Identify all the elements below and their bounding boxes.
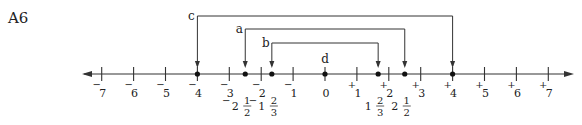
tick-label: 7 (546, 87, 553, 100)
fraction-denominator: 2 (244, 107, 250, 118)
tick-label: 4 (450, 87, 457, 100)
point-dot (450, 71, 455, 76)
tick-label: 6 (131, 87, 138, 100)
pair-label-c: c (188, 9, 195, 23)
fraction-whole: 2 (232, 100, 239, 113)
arrowhead-icon (450, 61, 455, 68)
fraction-numerator: 1 (404, 95, 410, 106)
point-dot (376, 71, 381, 76)
tick-label: 4 (195, 87, 202, 100)
fraction-numerator: 2 (377, 95, 383, 106)
arrowhead-icon (195, 61, 200, 68)
tick-label: 1 (291, 87, 298, 100)
point-dot (402, 71, 407, 76)
point-dot (243, 71, 248, 76)
right-arrow-icon (564, 71, 574, 77)
point-dot (322, 71, 327, 76)
fraction-whole: 2 (391, 100, 398, 113)
tick-label: 5 (163, 87, 170, 100)
point-dot (269, 71, 274, 76)
pair-label-b: b (262, 36, 270, 50)
tick-label: 3 (418, 87, 425, 100)
fraction-whole: 1 (258, 100, 265, 113)
number-line-diagram: −7−6−5−4−3−2−10+1+2+3+4+5+6+7−212−123123… (0, 0, 582, 125)
arrowhead-icon (376, 61, 381, 68)
tick-label: 7 (99, 87, 106, 100)
fraction-sign: − (222, 95, 230, 106)
arrowhead-icon (243, 61, 248, 68)
point-label-d: d (321, 52, 329, 66)
point-dot (195, 71, 200, 76)
tick-label: 5 (482, 87, 489, 100)
fraction-denominator: 2 (404, 107, 410, 118)
pair-label-a: a (236, 22, 243, 36)
arrowhead-icon (402, 61, 407, 68)
tick-label: 2 (259, 87, 266, 100)
fraction-denominator: 3 (271, 107, 277, 118)
fraction-whole: 1 (365, 100, 372, 113)
tick-label: 0 (323, 87, 330, 100)
tick-label: 1 (354, 87, 361, 100)
left-arrow-icon (82, 71, 92, 77)
tick-label: 2 (386, 87, 393, 100)
fraction-denominator: 3 (377, 107, 383, 118)
arrowhead-icon (269, 61, 274, 68)
fraction-numerator: 2 (271, 95, 277, 106)
fraction-sign: − (249, 95, 257, 106)
tick-label: 6 (514, 87, 521, 100)
